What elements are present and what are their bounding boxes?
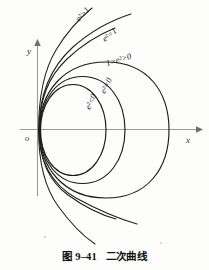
figure-caption: 图 9–41二次曲线	[0, 248, 209, 263]
figure-container: y x o e²>1 e²=1 1>e²>0 e²=0 e²<0 图 9–41二…	[0, 0, 209, 270]
x-axis-label: x	[185, 135, 190, 145]
y-axis-label: y	[26, 46, 31, 56]
scan-speck	[44, 236, 46, 238]
curve-label-parabola: e²=1	[101, 26, 119, 43]
origin-label: o	[25, 133, 29, 143]
scan-speck	[160, 242, 162, 244]
caption-number: 图 9–41	[62, 251, 97, 262]
curve-label-hyperbola: e²>1	[74, 5, 92, 23]
curve-intermediate	[39, 28, 116, 219]
caption-title: 二次曲线	[106, 251, 147, 262]
curve-label-circle: e²=0	[99, 76, 114, 95]
curve-label-imaginary: e²<0	[84, 92, 99, 111]
conic-sections-diagram: y x o e²>1 e²=1 1>e²>0 e²=0 e²<0	[0, 0, 209, 246]
y-axis-arrowhead	[34, 39, 41, 46]
curve-parabola	[39, 14, 137, 224]
x-axis-arrowhead	[196, 126, 203, 133]
